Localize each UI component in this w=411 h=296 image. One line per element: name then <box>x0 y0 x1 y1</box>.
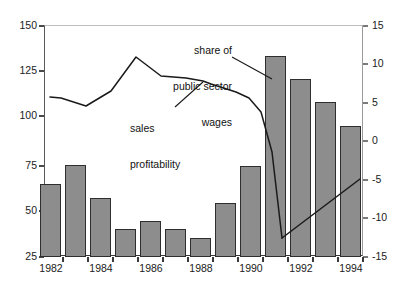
annotation-line-1: share of <box>150 44 232 56</box>
sales-profitability-recovery-line <box>282 179 360 238</box>
chart-container: 150 125 100 75 50 25 15 10 5 0 -5 -10 -1… <box>0 0 411 296</box>
annotation-sales-line-2: profitability <box>130 158 200 170</box>
annotation-line-2: public sector <box>150 80 232 92</box>
annotation-sales-profitability: sales profitability <box>130 98 200 194</box>
share-of-public-sector-wages-leader <box>232 57 272 79</box>
annotation-sales-line-1: sales <box>130 122 200 134</box>
